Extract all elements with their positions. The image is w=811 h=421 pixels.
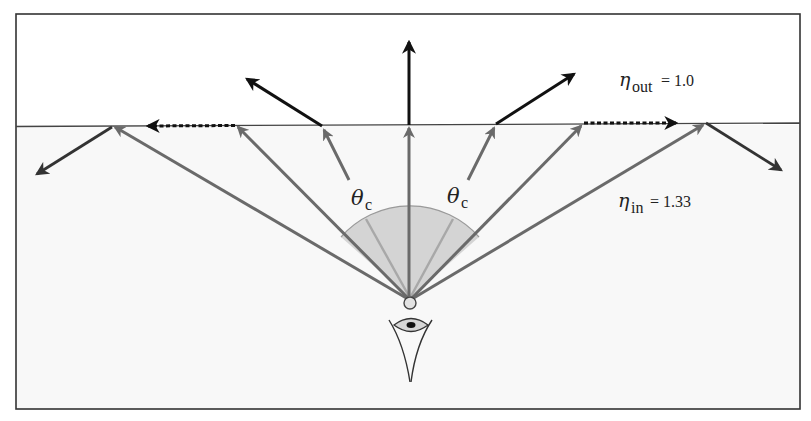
eta-out-symbol: η <box>619 68 631 90</box>
theta-c-right-symbol: θ <box>447 184 460 208</box>
eta-in-subscript: in <box>631 199 643 216</box>
theta-c-left-subscript: c <box>365 196 372 213</box>
eta-in-value: = 1.33 <box>646 193 691 210</box>
eta-out-subscript: out <box>632 78 653 95</box>
snells-window-diagram: η out = 1.0 η in = 1.33 θ c θ c <box>0 0 811 421</box>
eta-in-symbol: η <box>618 189 630 211</box>
theta-c-left-symbol: θ <box>351 186 364 210</box>
light-source-point <box>404 297 416 309</box>
eta-out-value: = 1.0 <box>657 72 694 89</box>
theta-c-right-subscript: c <box>461 194 468 211</box>
